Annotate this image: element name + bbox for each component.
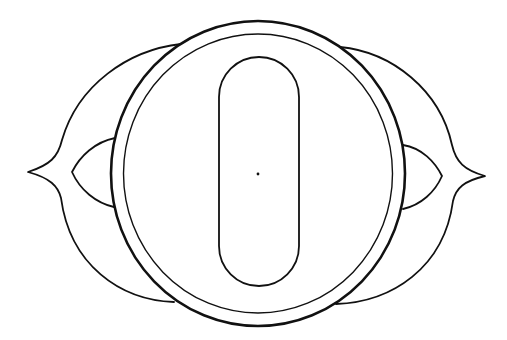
left-lens-shape [72,138,115,207]
diagram-svg [0,0,507,340]
right-lens-shape [403,145,442,209]
diagram-canvas: Line drawing of a round object with an o… [0,0,507,340]
center-dot [257,173,260,176]
